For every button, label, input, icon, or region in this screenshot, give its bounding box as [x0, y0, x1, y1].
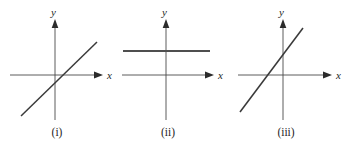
figure-canvas: x y (i) x y (ii) x y (iii): [0, 0, 348, 146]
panel-ii-caption: (ii): [161, 126, 175, 139]
panel-i-x-axis-label: x: [106, 69, 112, 81]
panel-i-caption: (i): [52, 126, 63, 139]
panel-ii-y-axis-label: y: [161, 6, 167, 18]
panel-i-y-axis-label: y: [50, 6, 56, 18]
panel-iii-x-axis-label: x: [335, 69, 341, 81]
figure-root: x y (i) x y (ii) x y (iii): [0, 0, 348, 146]
panel-iii-y-axis-label: y: [278, 6, 284, 18]
figure-background: [0, 0, 348, 146]
panel-ii-x-axis-label: x: [217, 69, 223, 81]
panel-iii-caption: (iii): [277, 126, 294, 139]
